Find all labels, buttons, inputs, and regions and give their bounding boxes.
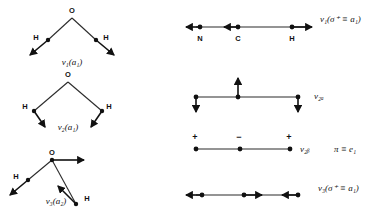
hcn-v1-mode-label: ν₁(σ⁺ ≡ a₁)	[320, 14, 361, 24]
h2o-v1-bond-right	[72, 18, 96, 40]
hcn-v2b-atom-right-atom	[288, 147, 293, 152]
h2o-v1-label-O: O	[69, 6, 75, 15]
h2o-v1-bond-left	[48, 18, 72, 40]
mode-hcn-v3: ν₃(σ⁺ ≡ a₁)	[186, 183, 359, 197]
mode-h2o-v1: OHHν₁(a₁)	[30, 6, 114, 67]
hcn-v2b-mode-label: ν₂ᵦ	[300, 144, 310, 154]
hcn-v2b-sign-left: +	[192, 132, 197, 142]
diagram-group: OHHν₁(a₁)OHHν₂(a₁)OHHν₃(a₂)NCHν₁(σ⁺ ≡ a₁…	[10, 6, 361, 206]
h2o-v3-label-H-left: H	[13, 172, 18, 181]
hcn-v2b-atom-center-atom	[238, 147, 243, 152]
h2o-v3-bond-left	[28, 160, 52, 180]
h2o-v2-h-right-bend	[91, 111, 102, 127]
hcn-v1-label-C: C	[235, 34, 241, 43]
h2o-v1-h-left-stretch	[30, 40, 48, 55]
h2o-v1-h-right-stretch	[96, 40, 114, 55]
h2o-v2-bond-right	[68, 82, 102, 111]
vibrational-modes-figure: OHHν₁(a₁)OHHν₂(a₁)OHHν₃(a₂)NCHν₁(σ⁺ ≡ a₁…	[0, 0, 381, 219]
hcn-v1-label-N: N	[197, 34, 202, 43]
mode-h2o-v2: OHHν₂(a₁)	[22, 70, 111, 132]
h2o-v2-h-left-bend	[34, 111, 45, 127]
hcn-v2b-sign-center: −	[236, 132, 241, 142]
hcn-v1-label-H: H	[289, 34, 294, 43]
h2o-v1-label-H-left: H	[33, 33, 38, 42]
h2o-v1-mode-label: ν₁(a₁)	[62, 57, 83, 67]
mode-h2o-v3: OHHν₃(a₂)	[10, 148, 90, 206]
mode-hcn-v1: NCHν₁(σ⁺ ≡ a₁)	[186, 14, 361, 43]
hcn-v3-mode-label: ν₃(σ⁺ ≡ a₁)	[318, 183, 359, 193]
h2o-v3-label-O: O	[49, 148, 55, 157]
mode-hcn-v2b: +−+ν₂ᵦπ ≡ e₁	[192, 132, 356, 154]
h2o-v1-label-H-right: H	[103, 33, 108, 42]
h2o-v3-h-left-shift	[10, 180, 28, 195]
hcn-v2b-symmetry-label: π ≡ e₁	[334, 144, 356, 154]
h2o-v2-label-H-right: H	[106, 102, 111, 111]
h2o-v3-label-H-right: H	[84, 194, 89, 203]
mode-hcn-v2a: ν₂ₐ	[194, 78, 325, 112]
figure-canvas: OHHν₁(a₁)OHHν₂(a₁)OHHν₃(a₂)NCHν₁(σ⁺ ≡ a₁…	[0, 0, 381, 219]
h2o-v3-mode-label: ν₃(a₂)	[46, 196, 67, 206]
hcn-v2a-mode-label: ν₂ₐ	[314, 91, 324, 101]
h2o-v2-bond-left	[34, 82, 68, 111]
hcn-v2b-atom-left-atom	[194, 147, 199, 152]
hcn-v2b-sign-right: +	[286, 132, 291, 142]
h2o-v2-mode-label: ν₂(a₁)	[58, 122, 79, 132]
h2o-v2-label-H-left: H	[22, 102, 27, 111]
h2o-v2-label-O: O	[65, 70, 71, 79]
